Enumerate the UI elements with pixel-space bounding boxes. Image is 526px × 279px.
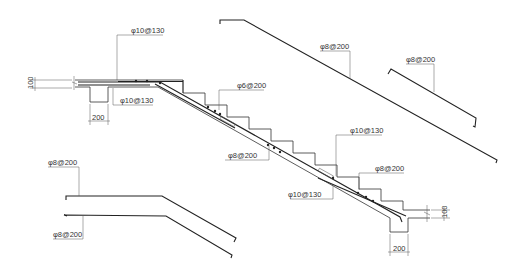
leader-short-bar bbox=[406, 64, 434, 92]
upper-top-bar bbox=[155, 84, 235, 128]
short-bar-shape bbox=[388, 69, 476, 127]
dim-left-thickness-lines bbox=[30, 77, 72, 91]
lower-bar-end bbox=[318, 168, 333, 178]
dim-right-thickness: 100 bbox=[440, 205, 449, 218]
right-break-line bbox=[424, 205, 430, 222]
label-lower-top-bar: φ10@130 bbox=[350, 126, 383, 135]
label-detail-short-bar: φ8@200 bbox=[406, 55, 435, 64]
right-beam bbox=[390, 218, 430, 232]
label-slab-distribution: φ8@200 bbox=[228, 151, 257, 160]
label-upper-distribution: φ6@200 bbox=[237, 81, 266, 90]
lower-top-bar bbox=[318, 178, 406, 216]
label-detail-bent-bottom: φ8@200 bbox=[53, 230, 82, 239]
dim-left-beam-width: 200 bbox=[92, 113, 105, 122]
stair-section: φ10@130 φ10@130 φ6@200 φ8@200 φ10@130 φ1… bbox=[26, 26, 450, 256]
label-detail-bent-top: φ8@200 bbox=[48, 158, 77, 167]
dim-right-beam-width: 200 bbox=[393, 244, 406, 253]
slab-soffit bbox=[158, 87, 390, 218]
label-top-landing-bottom-bar: φ10@130 bbox=[120, 96, 153, 105]
leader-upper-distribution bbox=[219, 90, 264, 110]
label-top-landing-top-bar: φ10@130 bbox=[131, 26, 164, 35]
bent-top-bar-shape bbox=[66, 196, 236, 242]
left-beam bbox=[90, 87, 108, 102]
dim-left-thickness: 100 bbox=[26, 76, 35, 89]
leader-lower-distribution bbox=[359, 173, 404, 190]
label-lower-bottom-bar: φ10@130 bbox=[288, 190, 321, 199]
label-detail-long-bar: φ8@200 bbox=[320, 42, 349, 51]
label-lower-distribution: φ8@200 bbox=[375, 164, 404, 173]
long-bar-shape bbox=[220, 20, 497, 163]
stair-reinforcement-drawing: φ10@130 φ10@130 φ6@200 φ8@200 φ10@130 φ1… bbox=[0, 0, 526, 279]
distribution-bar-dots bbox=[135, 80, 374, 202]
detail-short-bar: φ8@200 bbox=[388, 55, 476, 127]
left-break-line bbox=[72, 76, 77, 90]
leader-bent-top bbox=[48, 167, 79, 196]
detail-bent-bars: φ8@200 φ8@200 bbox=[48, 158, 236, 258]
detail-long-bar: φ8@200 bbox=[220, 20, 497, 163]
leader-top-landing bbox=[117, 35, 163, 80]
